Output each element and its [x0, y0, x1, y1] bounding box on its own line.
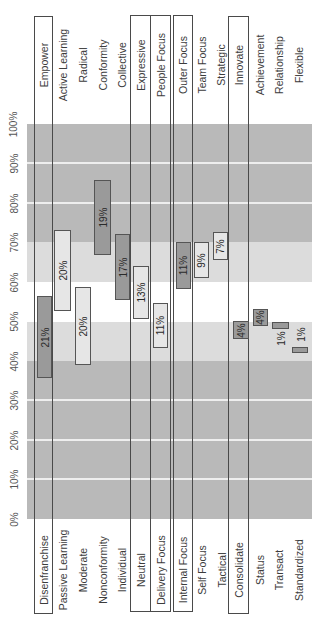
label-transact: Transact	[269, 528, 289, 612]
label-achievement: Achievement	[250, 18, 270, 112]
label-delivery-focus: Delivery Focus	[151, 528, 171, 612]
bar-innovate-consolidate: 4%	[233, 321, 249, 339]
label-internal-focus: Internal Focus	[173, 528, 193, 612]
tick-80: 80%	[4, 183, 24, 223]
tick-20: 20%	[4, 420, 24, 460]
bar-flexible-standardized	[292, 347, 308, 353]
value-label-transact: 1%	[273, 328, 289, 348]
label-people-focus: People Focus	[151, 18, 171, 112]
rotated-range-bar-chart: 100% 90% 80% 70% 60% 50% 40% 30% 20% 10%…	[0, 0, 326, 639]
label-nonconformity: Nonconformity	[93, 528, 113, 612]
tick-60: 60%	[4, 262, 24, 302]
label-team-focus: Team Focus	[192, 18, 212, 112]
tick-50: 50%	[4, 301, 24, 341]
label-innovate: Innovate	[229, 18, 249, 112]
bar-team-self-focus: 9%	[194, 242, 209, 278]
label-collective: Collective	[112, 18, 132, 112]
label-expressive: Expressive	[131, 18, 151, 112]
label-disenfranchise: Disenfranchise	[34, 528, 54, 612]
bar-conformity-nonconformity: 19%	[94, 180, 111, 255]
label-conformity: Conformity	[93, 18, 113, 112]
tick-90: 90%	[4, 143, 24, 183]
label-empower: Empower	[34, 18, 54, 112]
label-individual: Individual	[112, 528, 132, 612]
tick-100: 100%	[4, 104, 24, 144]
tick-0: 0%	[4, 499, 24, 539]
bar-strategic-tactical: 7%	[213, 232, 228, 260]
label-moderate: Moderate	[73, 528, 93, 612]
bar-active-passive-learning: 20%	[54, 230, 71, 311]
tick-70: 70%	[4, 222, 24, 262]
label-neutral: Neutral	[131, 528, 151, 612]
bar-empower-disenfranchise: 21%	[37, 296, 52, 378]
label-self-focus: Self Focus	[192, 528, 212, 612]
label-strategic: Strategic	[211, 18, 231, 112]
label-passive-learning: Passive Learning	[53, 528, 73, 612]
tick-10: 10%	[4, 459, 24, 499]
value-label-standardized: 1%	[293, 324, 309, 344]
label-status: Status	[250, 528, 270, 612]
label-relationship: Relationship	[269, 18, 289, 112]
bar-outer-internal-focus: 11%	[176, 242, 191, 289]
bar-expressive-neutral: 13%	[133, 266, 149, 319]
bar-achievement-status: 4%	[253, 309, 268, 326]
label-tactical: Tactical	[211, 528, 231, 612]
label-active-learning: Active Learning	[53, 18, 73, 112]
bar-radical-moderate: 20%	[75, 287, 91, 365]
bar-people-delivery-focus: 11%	[153, 303, 168, 348]
label-flexible: Flexible	[289, 18, 309, 112]
tick-30: 30%	[4, 380, 24, 420]
tick-40: 40%	[4, 341, 24, 381]
bar-collective-individual: 17%	[115, 234, 130, 300]
label-outer-focus: Outer Focus	[173, 18, 193, 112]
label-radical: Radical	[73, 18, 93, 112]
label-standardized: Standardized	[289, 528, 309, 612]
label-consolidate: Consolidate	[229, 528, 249, 612]
